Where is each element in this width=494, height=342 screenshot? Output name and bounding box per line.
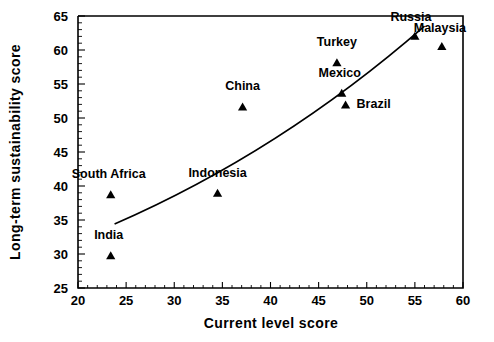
- data-point-label: India: [94, 228, 124, 242]
- data-point: Turkey: [317, 35, 357, 66]
- data-point-marker: [213, 189, 222, 197]
- y-tick-label: 50: [54, 111, 68, 126]
- data-point: Mexico: [319, 66, 362, 97]
- data-point-marker: [106, 190, 115, 198]
- trend-line: [115, 26, 425, 224]
- y-axis-title: Long-term sustainability score: [7, 44, 23, 260]
- data-point: Brazil: [341, 97, 391, 111]
- data-point-label: South Africa: [72, 167, 147, 181]
- x-tick-label: 25: [119, 293, 133, 308]
- y-tick-label: 55: [54, 77, 68, 92]
- x-tick-label: 55: [408, 293, 422, 308]
- plot-frame: [78, 16, 463, 288]
- data-point-label: Mexico: [319, 66, 362, 80]
- y-tick-label: 35: [54, 213, 68, 228]
- data-point-label: Brazil: [357, 97, 391, 111]
- x-tick-label: 30: [167, 293, 181, 308]
- y-tick-label: 60: [54, 43, 68, 58]
- plot-border: [78, 16, 463, 288]
- trend-curve: [115, 26, 425, 224]
- data-points: IndiaSouth AfricaIndonesiaChinaTurkeyMex…: [72, 10, 467, 260]
- y-tick-label: 65: [54, 9, 68, 24]
- data-point: Indonesia: [188, 166, 247, 197]
- data-point-marker: [106, 251, 115, 259]
- y-tick-label: 30: [54, 247, 68, 262]
- scatter-chart: 202530354045505560 253035404550556065 In…: [0, 0, 494, 342]
- x-tick-label: 20: [71, 293, 85, 308]
- y-tick-label: 40: [54, 179, 68, 194]
- x-axis-ticks: [78, 282, 463, 288]
- data-point-label: China: [225, 79, 261, 93]
- x-tick-label: 40: [263, 293, 277, 308]
- y-axis-ticks: [78, 16, 85, 288]
- data-point-marker: [437, 42, 446, 50]
- data-point-label: Indonesia: [188, 166, 247, 180]
- data-point-marker: [341, 100, 350, 108]
- data-point: South Africa: [72, 167, 147, 198]
- data-point: China: [225, 79, 261, 110]
- data-point-label: Turkey: [317, 35, 357, 49]
- x-tick-label: 45: [311, 293, 325, 308]
- x-axis-tick-labels: 202530354045505560: [71, 293, 470, 308]
- y-axis-tick-labels: 253035404550556065: [54, 9, 68, 296]
- chart-canvas: 202530354045505560 253035404550556065 In…: [0, 0, 494, 342]
- y-tick-label: 25: [54, 281, 68, 296]
- x-axis-title: Current level score: [204, 315, 338, 331]
- data-point: Malaysia: [414, 21, 467, 50]
- data-point-marker: [238, 102, 247, 110]
- data-point-label: Malaysia: [414, 21, 467, 35]
- y-tick-label: 45: [54, 145, 68, 160]
- x-tick-label: 50: [360, 293, 374, 308]
- x-tick-label: 60: [456, 293, 470, 308]
- data-point: India: [94, 228, 124, 259]
- x-tick-label: 35: [215, 293, 229, 308]
